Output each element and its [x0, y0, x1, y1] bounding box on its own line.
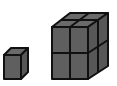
- large-cube: [52, 13, 108, 79]
- cube-diagram: unit cube 2x2x2 cube: [0, 0, 117, 86]
- small-cube-front-face: [4, 55, 21, 79]
- small-cube-side-face: [21, 48, 28, 79]
- cubes-svg: [0, 0, 117, 86]
- small-cube: [4, 48, 28, 79]
